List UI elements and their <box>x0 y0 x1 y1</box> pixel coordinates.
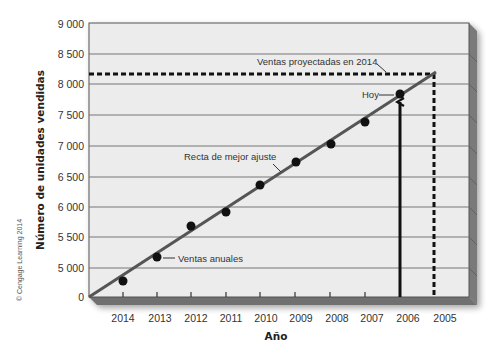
x-tick: 2005 <box>433 312 457 324</box>
x-axis-ticks: 2014 2013 2012 2011 2010 2009 2008 2007 … <box>111 312 457 324</box>
x-tick: 2014 <box>111 312 135 324</box>
data-point-2009 <box>292 158 301 167</box>
x-tick: 2012 <box>184 312 208 324</box>
annotation-best-fit: Recta de mejor ajuste <box>184 151 276 162</box>
y-tick: 5 500 <box>58 231 84 243</box>
x-axis-title: Año <box>265 330 288 342</box>
y-tick: 9 000 <box>58 18 84 30</box>
y-tick: 7 500 <box>58 109 84 121</box>
data-point-2007 <box>361 118 370 127</box>
sales-trend-chart: 9 000 8 500 8 000 7 500 7 000 6 500 6 00… <box>0 0 497 352</box>
y-tick: 8 000 <box>58 78 84 90</box>
data-point-2013 <box>153 253 162 262</box>
annotation-hoy: Hoy <box>362 89 379 100</box>
data-point-2012 <box>187 222 196 231</box>
x-tick: 2011 <box>220 312 243 324</box>
y-axis-title: Número de unidades vendidas <box>34 70 46 250</box>
x-tick: 2007 <box>360 312 384 324</box>
annotation-ventas-anuales: Ventas anuales <box>178 253 243 264</box>
data-point-2014 <box>119 277 128 286</box>
y-axis-ticks: 9 000 8 500 8 000 7 500 7 000 6 500 6 00… <box>58 18 84 303</box>
x-tick: 2009 <box>289 312 313 324</box>
x-tick: 2008 <box>325 312 349 324</box>
x-tick: 2013 <box>148 312 172 324</box>
data-point-2010 <box>256 181 265 190</box>
y-tick: 6 000 <box>58 201 84 213</box>
x-tick: 2010 <box>254 312 278 324</box>
data-point-2006 <box>396 90 405 99</box>
y-tick: 8 500 <box>58 48 84 60</box>
copyright-credit: © Cengage Learning 2014 <box>16 219 24 301</box>
data-point-2008 <box>327 140 336 149</box>
y-tick: 7 000 <box>58 140 84 152</box>
y-tick: 0 <box>78 291 84 303</box>
data-point-2011 <box>222 208 231 217</box>
annotation-projected-sales: Ventas proyectadas en 2014 <box>257 56 377 67</box>
y-tick: 6 500 <box>58 171 84 183</box>
x-tick: 2006 <box>396 312 420 324</box>
y-tick: 5 000 <box>58 262 84 274</box>
